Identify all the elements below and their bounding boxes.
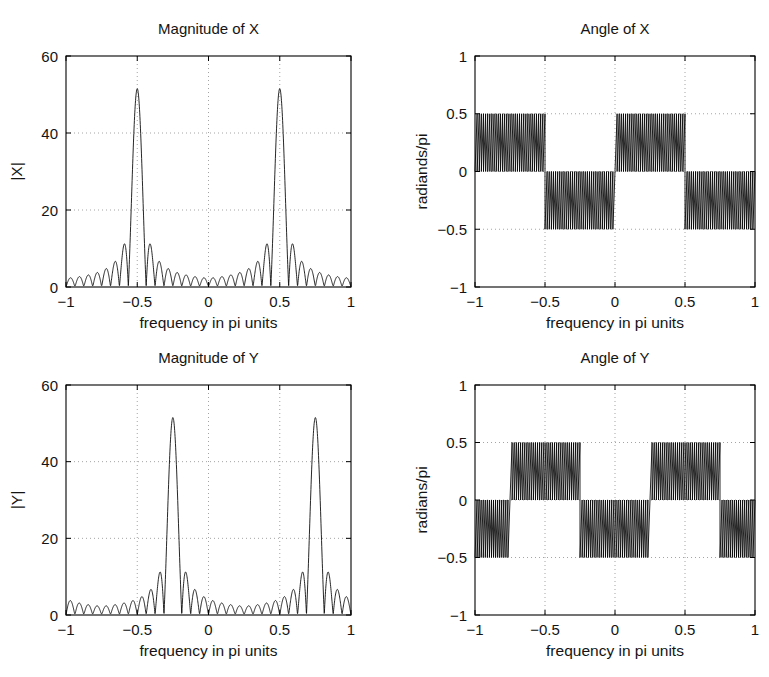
xtick-label: 0 xyxy=(204,293,212,310)
xtick-label: 0.5 xyxy=(675,293,696,310)
ytick-label: 0 xyxy=(459,492,467,509)
xtick-label: 0 xyxy=(611,621,619,638)
xtick-label: 0.5 xyxy=(269,621,290,638)
x-axis-label: frequency in pi units xyxy=(546,314,684,331)
xtick-label: −1 xyxy=(466,621,483,638)
ytick-label: 40 xyxy=(41,453,58,470)
xtick-label: 1 xyxy=(347,621,355,638)
figure-canvas: −1−0.500.510204060Magnitude of Xfrequenc… xyxy=(0,0,769,677)
y-axis-label: radiands/pi xyxy=(413,134,430,210)
ytick-label: 0 xyxy=(50,279,58,296)
y-axis-label: |X| xyxy=(8,162,25,180)
ytick-label: 0 xyxy=(459,163,467,180)
ytick-label: 1 xyxy=(459,48,467,65)
y-axis-label: |Y| xyxy=(8,491,25,509)
y-axis-label: radians/pi xyxy=(413,466,430,533)
ytick-label: −1 xyxy=(450,607,467,624)
ytick-label: 60 xyxy=(41,48,58,65)
ytick-label: 0.5 xyxy=(446,434,467,451)
xtick-label: −0.5 xyxy=(122,293,152,310)
xtick-label: −1 xyxy=(57,293,74,310)
ytick-label: 20 xyxy=(41,530,58,547)
ytick-label: 20 xyxy=(41,202,58,219)
ytick-label: 60 xyxy=(41,377,58,394)
xtick-label: −1 xyxy=(57,621,74,638)
xtick-label: 0 xyxy=(611,293,619,310)
xtick-label: 1 xyxy=(347,293,355,310)
ytick-label: 0 xyxy=(50,607,58,624)
subplot-title: Magnitude of X xyxy=(158,20,259,37)
ytick-label: 0.5 xyxy=(446,105,467,122)
xtick-label: 0.5 xyxy=(269,293,290,310)
xtick-label: 1 xyxy=(751,621,759,638)
xtick-label: −1 xyxy=(466,293,483,310)
subplot-title: Angle of Y xyxy=(581,349,650,366)
xtick-label: 0 xyxy=(204,621,212,638)
ytick-label: 40 xyxy=(41,125,58,142)
xtick-label: −0.5 xyxy=(530,621,560,638)
x-axis-label: frequency in pi units xyxy=(140,314,278,331)
ytick-label: −0.5 xyxy=(437,549,467,566)
xtick-label: −0.5 xyxy=(122,621,152,638)
ytick-label: 1 xyxy=(459,377,467,394)
ytick-label: −1 xyxy=(450,279,467,296)
subplot-title: Magnitude of Y xyxy=(158,349,259,366)
xtick-label: −0.5 xyxy=(530,293,560,310)
xtick-label: 0.5 xyxy=(675,621,696,638)
x-axis-label: frequency in pi units xyxy=(546,642,684,659)
x-axis-label: frequency in pi units xyxy=(140,642,278,659)
subplot-title: Angle of X xyxy=(580,20,649,37)
ytick-label: −0.5 xyxy=(437,221,467,238)
xtick-label: 1 xyxy=(751,293,759,310)
